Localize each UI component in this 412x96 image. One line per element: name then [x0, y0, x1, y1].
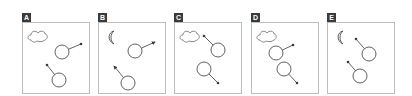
panel-c: C: [174, 13, 242, 94]
circle-with-line-icon: [203, 35, 225, 57]
panel-b: B: [98, 13, 166, 94]
circle-with-line-icon: [114, 66, 135, 90]
circle-with-line-icon: [46, 64, 66, 87]
panel-label: D: [251, 13, 260, 22]
circle-with-line-icon: [197, 62, 219, 84]
panel-label: A: [22, 13, 31, 22]
circle-with-line-icon: [355, 38, 376, 61]
circle-with-line-icon: [277, 62, 298, 84]
panel-d: D: [251, 13, 319, 94]
panel-label: C: [174, 13, 183, 22]
circle-with-line-icon: [269, 44, 294, 60]
panel-frame: [251, 22, 319, 94]
panel-label: E: [327, 13, 336, 22]
circle-with-line-icon: [128, 42, 155, 58]
panel-a: A: [22, 13, 90, 94]
moon-icon: [109, 31, 114, 44]
cloud-icon: [180, 31, 199, 42]
cloud-icon: [257, 31, 276, 42]
circle-with-line-icon: [55, 43, 82, 59]
panel-frame: [174, 22, 242, 94]
panel-frame: [98, 22, 166, 94]
circle-with-line-icon: [347, 61, 367, 83]
cloud-icon: [28, 31, 47, 42]
panel-e: E: [327, 13, 395, 94]
moon-icon: [338, 31, 343, 44]
panel-frame: [22, 22, 90, 94]
panel-label: B: [98, 13, 107, 22]
panel-frame: [327, 22, 395, 94]
